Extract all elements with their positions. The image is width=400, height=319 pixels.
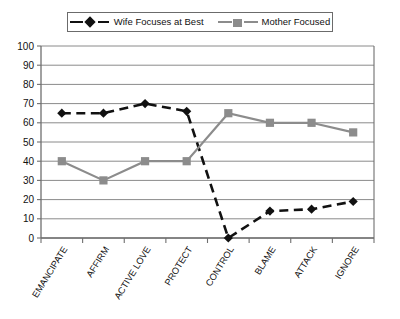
data-point-mother-6: [307, 119, 315, 127]
y-tick-label: 100: [17, 41, 34, 52]
data-point-mother-1: [99, 176, 107, 184]
y-tick-label: 20: [23, 194, 35, 205]
y-tick-label: 40: [23, 156, 35, 167]
x-axis-label: AFFIRM: [85, 245, 112, 279]
y-tick-label: 90: [23, 60, 35, 71]
data-point-wife-1: [99, 109, 108, 118]
data-point-wife-6: [307, 205, 316, 214]
chart-container: Wife Focuses at Best Mother Focused 1009…: [0, 0, 400, 319]
y-tick-label: 70: [23, 98, 35, 109]
y-tick-label: 10: [23, 213, 35, 224]
data-point-mother-4: [224, 109, 232, 117]
data-point-mother-3: [183, 157, 191, 165]
x-axis-label: BLAME: [253, 245, 278, 277]
y-tick-label: 60: [23, 117, 35, 128]
y-tick-label: 80: [23, 79, 35, 90]
x-axis-labels: EMANCIPATEAFFIRMACTIVE LOVEPROTECTCONTRO…: [30, 244, 361, 301]
x-axis-label: EMANCIPATE: [30, 245, 69, 300]
x-axis-label: PROTECT: [163, 244, 195, 287]
chart-plot-area: 1009080706050403020100 EMANCIPATEAFFIRMA…: [0, 0, 400, 319]
y-axis-ticks: 1009080706050403020100: [17, 41, 41, 244]
data-point-wife-0: [57, 109, 66, 118]
x-axis-ticks: [41, 238, 374, 243]
data-point-wife-7: [349, 197, 358, 206]
x-axis-label: ACTIVE LOVE: [112, 245, 152, 301]
data-point-mother-2: [141, 157, 149, 165]
y-tick-label: 30: [23, 175, 35, 186]
x-axis-label: ATTACK: [292, 244, 319, 280]
data-point-mother-5: [266, 119, 274, 127]
y-tick-label: 0: [28, 233, 34, 244]
chart-gridlines: [41, 46, 374, 238]
x-axis-label: CONTROL: [204, 245, 236, 288]
data-point-wife-2: [140, 99, 149, 108]
chart-series-layer: [57, 99, 358, 243]
data-point-mother-0: [58, 157, 66, 165]
y-tick-label: 50: [23, 137, 35, 148]
data-point-wife-3: [182, 107, 191, 116]
x-axis-label: IGNORE: [333, 245, 361, 281]
data-point-mother-7: [349, 128, 357, 136]
